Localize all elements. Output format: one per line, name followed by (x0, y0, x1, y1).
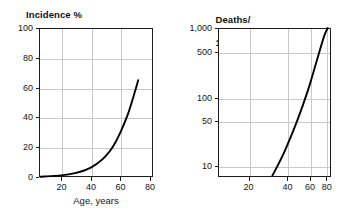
xtick-60 (310, 177, 311, 181)
xaxis-caption-incidence: Age, years (39, 196, 153, 206)
ytick-0 (36, 177, 40, 178)
gridline-x-20 (62, 29, 63, 176)
ytick-label-60: 60 (8, 84, 33, 93)
ytick-100 (215, 98, 219, 99)
ytick-label-100: 100 (174, 94, 212, 103)
gridline-y-10 (219, 167, 330, 168)
gridline-x-60 (121, 29, 122, 176)
gridline-y-500 (219, 53, 330, 54)
ytick-100 (36, 28, 40, 29)
chart-title-mortality-line1: Deaths/ (215, 14, 250, 25)
xtick-80 (326, 177, 327, 181)
xtick-40 (287, 177, 288, 181)
xtick-label-80: 80 (315, 183, 338, 192)
ytick-label-1000: 1,000 (174, 24, 212, 33)
xtick-label-20: 20 (237, 183, 261, 192)
gridline-y-100 (219, 99, 330, 100)
gridline-x-60 (311, 29, 312, 176)
gridline-y-60 (40, 89, 152, 90)
ytick-label-500: 500 (174, 48, 212, 57)
ytick-500 (215, 52, 219, 53)
xtick-label-40: 40 (79, 183, 104, 192)
plot-area-incidence (39, 28, 153, 177)
plot-area-mortality (218, 28, 331, 177)
ytick-60 (36, 88, 40, 89)
ytick-50 (215, 121, 219, 122)
ytick-10 (215, 166, 219, 167)
xtick-40 (91, 177, 92, 181)
gridline-y-80 (40, 59, 152, 60)
xtick-60 (120, 177, 121, 181)
gridline-x-80 (327, 29, 328, 176)
xtick-20 (61, 177, 62, 181)
ytick-40 (36, 117, 40, 118)
ytick-label-10: 10 (174, 162, 212, 171)
xtick-label-20: 20 (49, 183, 74, 192)
xtick-80 (150, 177, 151, 181)
ytick-label-0: 0 (8, 173, 33, 182)
ytick-1000 (215, 28, 219, 29)
xtick-label-40: 40 (275, 183, 299, 192)
ytick-80 (36, 58, 40, 59)
xtick-20 (249, 177, 250, 181)
dual-chart-figure: Incidence % 100 80 60 40 20 0 (0, 0, 342, 215)
ytick-label-50: 50 (174, 117, 212, 126)
ytick-label-100: 100 (8, 24, 33, 33)
gridline-x-20 (250, 29, 251, 176)
chart-panel-mortality: Deaths/ 100,000 (ASR) 1,000 500 100 50 1… (171, 0, 342, 215)
gridline-y-50 (219, 122, 330, 123)
chart-title-incidence: Incidence % (26, 9, 82, 21)
xtick-label-80: 80 (138, 183, 163, 192)
gridline-x-40 (92, 29, 93, 176)
ytick-label-20: 20 (8, 143, 33, 152)
ytick-20 (36, 147, 40, 148)
gridline-x-40 (288, 29, 289, 176)
ytick-label-80: 80 (8, 54, 33, 63)
gridline-y-40 (40, 118, 152, 119)
gridline-y-20 (40, 148, 152, 149)
xtick-label-60: 60 (108, 183, 133, 192)
chart-panel-incidence: Incidence % 100 80 60 40 20 0 (0, 0, 171, 215)
ytick-label-40: 40 (8, 113, 33, 122)
